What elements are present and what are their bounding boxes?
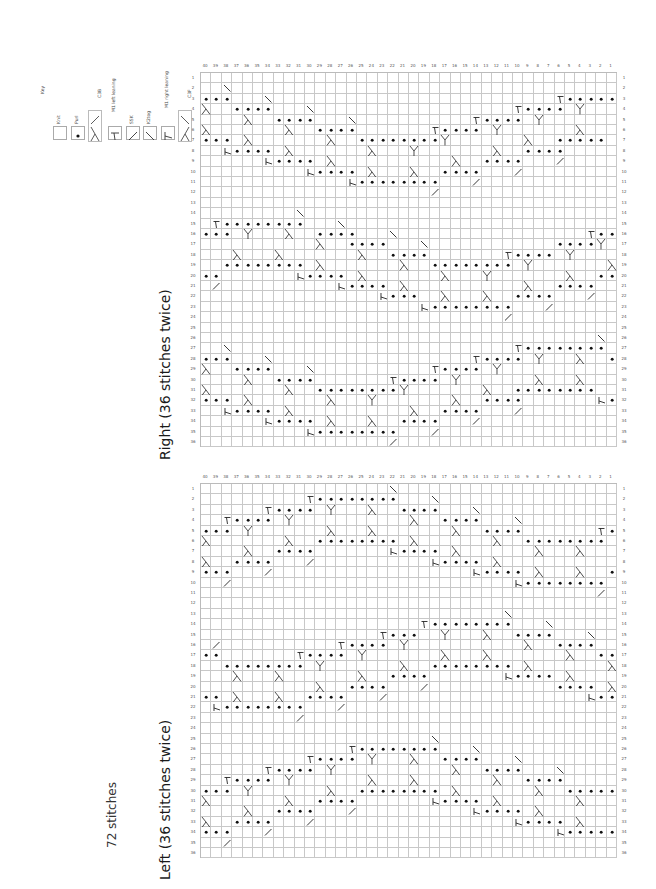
chart-cell [565, 765, 575, 775]
column-number: 12 [491, 63, 501, 68]
column-number: 17 [439, 63, 449, 68]
chart-cell [274, 354, 284, 364]
chart-cell [523, 702, 533, 712]
chart-cell [482, 177, 492, 187]
chart-cell [295, 557, 305, 567]
chart-cell [513, 135, 523, 145]
chart-cell [232, 395, 242, 405]
chart-cell [419, 302, 429, 312]
chart-cell [336, 406, 346, 416]
chart-cell [586, 744, 596, 754]
chart-cell [430, 437, 440, 447]
chart-cell [201, 619, 211, 629]
chart-cell [409, 427, 419, 437]
chart-cell [409, 484, 419, 494]
chart-cell [388, 323, 398, 333]
chart-cell [596, 208, 606, 218]
chart-cell [222, 817, 232, 827]
chart-cell [295, 806, 305, 816]
row-number: 27 [188, 756, 198, 761]
chart-cell [232, 619, 242, 629]
chart-cell [534, 416, 544, 426]
column-number: 4 [574, 63, 584, 68]
chart-cell [326, 661, 336, 671]
chart-cell [305, 187, 315, 197]
chart-cell [388, 526, 398, 536]
chart-cell [326, 104, 336, 114]
chart-cell [565, 817, 575, 827]
chart-cell [222, 765, 232, 775]
chart-cell [409, 250, 419, 260]
row-number: 11 [188, 179, 198, 184]
chart-cell [222, 219, 232, 229]
chart-cell [201, 536, 211, 546]
chart-cell [419, 630, 429, 640]
chart-cell [243, 375, 253, 385]
chart-cell [357, 167, 367, 177]
chart-cell [388, 754, 398, 764]
chart-cell [201, 650, 211, 660]
chart-cell [534, 208, 544, 218]
chart-cell [222, 682, 232, 692]
column-number: 15 [460, 63, 470, 68]
chart-cell [315, 167, 325, 177]
chart-cell [430, 125, 440, 135]
chart-cell [336, 515, 346, 525]
chart-cell [596, 239, 606, 249]
chart-cell [503, 333, 513, 343]
chart-cell [336, 754, 346, 764]
chart-cell [388, 343, 398, 353]
chart-cell [315, 578, 325, 588]
chart-cell [492, 281, 502, 291]
chart-cell [461, 526, 471, 536]
chart-cell [513, 598, 523, 608]
chart-cell [378, 848, 388, 858]
chart-cell [565, 167, 575, 177]
chart-cell [399, 578, 409, 588]
chart-cell [492, 546, 502, 556]
chart-cell [305, 73, 315, 83]
chart-cell [565, 588, 575, 598]
chart-cell [232, 827, 242, 837]
chart-cell [430, 177, 440, 187]
row-number: 16 [619, 231, 629, 236]
chart-cell [263, 302, 273, 312]
chart-cell [367, 250, 377, 260]
chart-cell [284, 364, 294, 374]
chart-cell [492, 156, 502, 166]
chart-cell [243, 333, 253, 343]
chart-cell [503, 239, 513, 249]
chart-cell [357, 239, 367, 249]
chart-cell [461, 650, 471, 660]
chart-cell [232, 734, 242, 744]
chart-cell [388, 578, 398, 588]
chart-cell [253, 619, 263, 629]
chart-cell [430, 775, 440, 785]
chart-cell [367, 598, 377, 608]
chart-cell [461, 609, 471, 619]
chart-cell [503, 343, 513, 353]
chart-cell [451, 281, 461, 291]
chart-cell [211, 364, 221, 374]
chart-cell [430, 661, 440, 671]
chart-cell [243, 364, 253, 374]
chart-cell [222, 619, 232, 629]
chart-cell [607, 395, 617, 405]
chart-cell [336, 838, 346, 848]
chart-cell [284, 104, 294, 114]
chart-cell [284, 713, 294, 723]
chart-cell [523, 219, 533, 229]
chart-cell [482, 73, 492, 83]
chart-cell [451, 250, 461, 260]
chart-cell [232, 692, 242, 702]
chart-cell [232, 671, 242, 681]
chart-cell [315, 484, 325, 494]
column-number: 36 [242, 63, 252, 68]
chart-cell [492, 640, 502, 650]
chart-cell [607, 650, 617, 660]
chart-cell [263, 536, 273, 546]
chart-cell [253, 333, 263, 343]
chart-cell [211, 796, 221, 806]
chart-cell [399, 557, 409, 567]
row-number: 36 [619, 850, 629, 855]
